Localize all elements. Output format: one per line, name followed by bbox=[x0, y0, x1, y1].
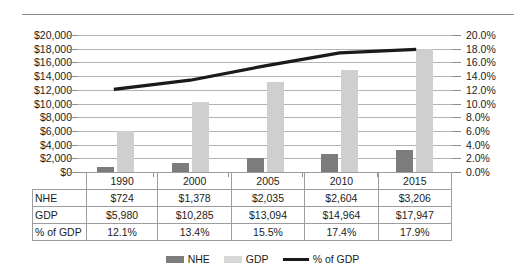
y-axis-right-label: 4.0% bbox=[466, 140, 520, 151]
legend-line-icon bbox=[283, 258, 309, 261]
chart-legend: NHEGDP% of GDP bbox=[0, 250, 525, 268]
y-tick-right bbox=[452, 49, 461, 50]
y-axis-right-label: 6.0% bbox=[466, 126, 520, 137]
y-axis-right-label: 0.0% bbox=[466, 167, 520, 178]
y-tick-left bbox=[69, 158, 78, 159]
legend-square-icon bbox=[224, 256, 242, 263]
table-cell: $10,285 bbox=[158, 207, 231, 224]
y-tick-left bbox=[69, 117, 78, 118]
table-cell: $724 bbox=[86, 190, 158, 207]
y-tick-right bbox=[452, 117, 461, 118]
table-row: GDP$5,980$10,285$13,094$14,964$17,947 bbox=[33, 207, 452, 224]
legend-label: GDP bbox=[246, 254, 269, 265]
y-tick-right bbox=[452, 76, 461, 77]
y-tick-right bbox=[452, 172, 461, 173]
y-axis-right-label: 14.0% bbox=[466, 71, 520, 82]
y-tick-left bbox=[69, 104, 78, 105]
y-axis-left-label: $16,000 bbox=[8, 57, 72, 68]
y-axis-right-label: 2.0% bbox=[466, 153, 520, 164]
combo-chart: $0$2,000$4,000$6,000$8,000$10,000$12,000… bbox=[0, 0, 525, 190]
table-cell: $5,980 bbox=[86, 207, 158, 224]
table-cell: $17,947 bbox=[378, 207, 451, 224]
y-tick-right bbox=[452, 35, 461, 36]
y-tick-right bbox=[452, 158, 461, 159]
percent-of-gdp-line bbox=[78, 35, 452, 172]
table-cell: $1,378 bbox=[158, 190, 231, 207]
table-column-header: 2005 bbox=[231, 173, 304, 190]
y-tick-left bbox=[69, 62, 78, 63]
table-column-header: 2000 bbox=[158, 173, 231, 190]
table-row: NHE$724$1,378$2,035$2,604$3,206 bbox=[33, 190, 452, 207]
legend-label: NHE bbox=[188, 254, 210, 265]
y-tick-left bbox=[69, 131, 78, 132]
chart-figure: $0$2,000$4,000$6,000$8,000$10,000$12,000… bbox=[0, 0, 525, 277]
y-axis-right-label: 18.0% bbox=[466, 44, 520, 55]
table-header-row: 19902000200520102015 bbox=[33, 173, 452, 190]
y-axis-right-label: 10.0% bbox=[466, 99, 520, 110]
table-cell: $2,604 bbox=[305, 190, 378, 207]
table-cell: 12.1% bbox=[86, 224, 158, 241]
table-cell: 13.4% bbox=[158, 224, 231, 241]
y-tick-left bbox=[69, 35, 78, 36]
table-column-header: 2015 bbox=[378, 173, 451, 190]
y-tick-right bbox=[452, 62, 461, 63]
y-tick-right bbox=[452, 90, 461, 91]
table-row-label: NHE bbox=[33, 190, 87, 207]
y-axis-right-label: 8.0% bbox=[466, 112, 520, 123]
y-axis-right-label: 12.0% bbox=[466, 85, 520, 96]
y-tick-right bbox=[452, 131, 461, 132]
table-column-header: 1990 bbox=[86, 173, 158, 190]
y-tick-left bbox=[69, 49, 78, 50]
table-cell: 17.4% bbox=[305, 224, 378, 241]
legend-item-of-gdp[interactable]: % of GDP bbox=[283, 254, 360, 265]
y-axis-left-label: $4,000 bbox=[8, 140, 72, 151]
table-column-header: 2010 bbox=[305, 173, 378, 190]
table-cell: $13,094 bbox=[231, 207, 304, 224]
y-axis-left-label: $6,000 bbox=[8, 126, 72, 137]
table-cell: 15.5% bbox=[231, 224, 304, 241]
y-tick-left bbox=[69, 90, 78, 91]
table-row-label: % of GDP bbox=[33, 224, 87, 241]
plot-area bbox=[78, 35, 452, 172]
table-cell: $2,035 bbox=[231, 190, 304, 207]
y-tick-left bbox=[69, 76, 78, 77]
y-axis-left-label: $20,000 bbox=[8, 30, 72, 41]
table-cell: $14,964 bbox=[305, 207, 378, 224]
y-axis-left-label: $14,000 bbox=[8, 71, 72, 82]
table-row: % of GDP12.1%13.4%15.5%17.4%17.9% bbox=[33, 224, 452, 241]
data-table: 19902000200520102015NHE$724$1,378$2,035$… bbox=[32, 172, 452, 241]
y-axis-left-label: $12,000 bbox=[8, 85, 72, 96]
y-axis-left-label: $10,000 bbox=[8, 99, 72, 110]
table-corner-cell bbox=[33, 173, 87, 190]
legend-item-nhe[interactable]: NHE bbox=[166, 254, 210, 265]
y-tick-right bbox=[452, 145, 461, 146]
table-row-label: GDP bbox=[33, 207, 87, 224]
table-cell: 17.9% bbox=[378, 224, 451, 241]
legend-square-icon bbox=[166, 256, 184, 263]
y-axis-left-label: $8,000 bbox=[8, 112, 72, 123]
legend-item-gdp[interactable]: GDP bbox=[224, 254, 269, 265]
y-axis-left-label: $18,000 bbox=[8, 44, 72, 55]
legend-label: % of GDP bbox=[313, 254, 360, 265]
table-cell: $3,206 bbox=[378, 190, 451, 207]
y-axis-right-label: 20.0% bbox=[466, 30, 520, 41]
y-axis-right-label: 16.0% bbox=[466, 57, 520, 68]
y-axis-left-label: $2,000 bbox=[8, 153, 72, 164]
y-tick-right bbox=[452, 104, 461, 105]
y-tick-left bbox=[69, 145, 78, 146]
